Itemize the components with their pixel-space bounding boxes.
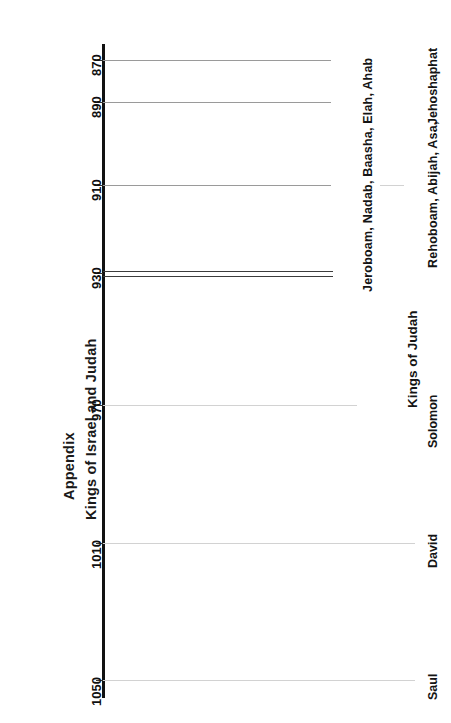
y-tick-label-1050: 1050 xyxy=(90,677,103,706)
reign-line-970 xyxy=(103,405,357,406)
reign-line-870 xyxy=(103,60,331,61)
chart-title-block: Appendix Kings of Israel and Judah xyxy=(16,0,76,723)
reign-line-910-judah xyxy=(380,185,404,186)
label-kings-of-judah-list: Rehoboam, Abijah, Asa, xyxy=(427,121,440,268)
reign-line-1050 xyxy=(103,680,415,681)
reign-line-884 xyxy=(103,102,331,103)
label-david: David xyxy=(427,534,440,568)
label-saul: Saul xyxy=(427,674,440,700)
y-tick-label-890: 890 xyxy=(90,96,103,118)
page-subtitle: Kings of Israel and Judah xyxy=(84,339,99,520)
reign-line-910 xyxy=(103,185,331,186)
y-tick-label-870: 870 xyxy=(90,54,103,76)
label-kings-of-judah-heading: Kings of Judah xyxy=(406,311,420,409)
page-title: Appendix xyxy=(62,432,77,500)
y-tick-label-910: 910 xyxy=(90,179,103,201)
y-tick-label-970: 970 xyxy=(90,399,103,421)
y-tick-label-1010: 1010 xyxy=(90,540,103,569)
reign-line-930a xyxy=(103,271,333,272)
y-tick-label-930: 930 xyxy=(90,267,103,289)
appendix-chart: Appendix Kings of Israel and Judah 870 8… xyxy=(0,0,451,723)
label-kings-of-israel-list: Jeroboam, Nadab, Baasha, Elah, Ahab xyxy=(362,58,375,292)
reign-line-1010 xyxy=(103,543,415,544)
reign-line-930b xyxy=(103,276,333,277)
label-solomon: Solomon xyxy=(427,395,440,448)
y-axis-line xyxy=(102,44,105,698)
label-jehoshaphat: Jehoshaphat xyxy=(427,48,440,125)
